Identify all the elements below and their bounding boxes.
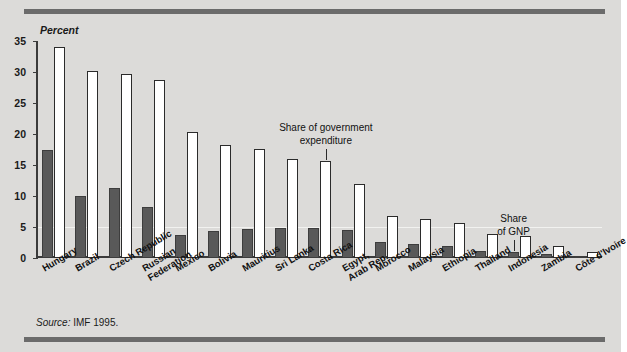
y-tick-label-5: 5	[20, 221, 26, 233]
y-tick-25: 25	[33, 103, 38, 104]
annotation-gov-line1: Share of government	[279, 122, 372, 133]
bar-gov-1	[87, 71, 98, 258]
source-label: Source:	[36, 317, 70, 328]
bar-gov-5	[220, 145, 231, 258]
top-rule	[24, 9, 605, 14]
y-tick-label-30: 30	[14, 66, 26, 78]
bar-gov-8	[320, 161, 331, 258]
bottom-rule	[24, 337, 605, 342]
y-tick-10: 10	[33, 196, 38, 197]
y-tick-label-35: 35	[14, 35, 26, 47]
y-tick-label-0: 0	[20, 252, 26, 264]
bar-gov-9	[354, 184, 365, 258]
bar-gov-4	[187, 132, 198, 258]
annotation-share-of-gnp: Share of GNP	[479, 212, 549, 238]
bar-gnp-0	[42, 150, 53, 259]
category-label-16: Côte d'Ivoire	[573, 235, 627, 274]
bar-gov-7	[287, 159, 298, 258]
annotation-share-of-government-expenditure: Share of government expenditure	[251, 121, 401, 147]
axis-title-percent: Percent	[40, 24, 79, 36]
category-label-16-line-0: Côte d'Ivoire	[573, 235, 627, 274]
y-tick-30: 30	[33, 72, 38, 73]
annotation-gov-line2: expenditure	[300, 135, 352, 146]
annotation-gov-leader-line	[326, 149, 327, 160]
annotation-gnp-leader-line	[514, 240, 515, 251]
bar-gov-2	[121, 74, 132, 258]
annotation-gnp-line1: Share	[500, 213, 527, 224]
y-tick-label-15: 15	[14, 159, 26, 171]
y-tick-35: 35	[33, 41, 38, 42]
y-tick-label-20: 20	[14, 128, 26, 140]
y-tick-20: 20	[33, 134, 38, 135]
bar-gnp-2	[109, 188, 120, 258]
bar-gnp-6	[242, 229, 253, 258]
y-tick-0: 0	[33, 258, 38, 259]
y-tick-15: 15	[33, 165, 38, 166]
y-tick-label-25: 25	[14, 97, 26, 109]
bar-gnp-5	[208, 231, 219, 258]
source-value: IMF 1995.	[73, 317, 118, 328]
bar-gnp-1	[75, 196, 86, 258]
bar-gov-0	[54, 47, 65, 258]
y-tick-label-10: 10	[14, 190, 26, 202]
source-note: Source: IMF 1995.	[36, 317, 118, 328]
y-axis-line	[36, 41, 38, 258]
bar-gov-6	[254, 149, 265, 258]
annotation-gnp-line2: of GNP	[497, 226, 530, 237]
